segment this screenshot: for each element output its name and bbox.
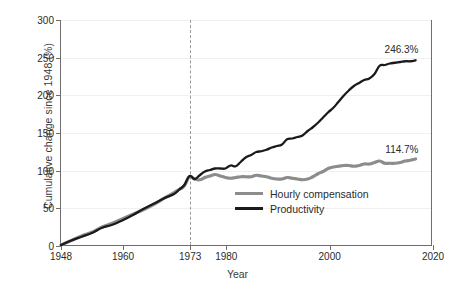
productivity-endpoint: 246.3% [385, 44, 419, 55]
y-tick-label: 50 [20, 203, 61, 214]
y-tick-label: 300 [20, 15, 61, 26]
legend-swatch [235, 207, 263, 210]
y-tick-label: 0 [20, 241, 61, 252]
x-tick-label: 1948 [50, 251, 72, 262]
x-tick-label: 1980 [215, 251, 237, 262]
x-tick-mark [433, 245, 434, 250]
x-tick-mark [226, 245, 227, 250]
y-tick-label: 100 [20, 165, 61, 176]
legend-label: Hourly compensation [270, 188, 369, 200]
x-axis-title: Year [0, 268, 457, 280]
x-tick-label: 1973 [179, 251, 201, 262]
x-tick-label: 1960 [112, 251, 134, 262]
x-tick-label: 2000 [319, 251, 341, 262]
legend-item[interactable]: Productivity [235, 201, 369, 216]
y-tick-label: 250 [20, 52, 61, 63]
x-tick-mark [123, 245, 124, 250]
series-line [61, 60, 416, 245]
legend: Hourly compensationProductivity [235, 186, 369, 216]
legend-swatch [235, 192, 263, 196]
y-tick-label: 200 [20, 90, 61, 101]
y-tick-label: 150 [20, 128, 61, 139]
legend-item[interactable]: Hourly compensation [235, 186, 369, 201]
productivity-pay-gap-chart: Cumulative change since 1948 (%) 0501001… [0, 0, 457, 288]
legend-label: Productivity [270, 203, 324, 215]
compensation-endpoint: 114.7% [385, 143, 418, 154]
x-tick-mark [190, 245, 191, 250]
x-tick-label: 2020 [422, 251, 444, 262]
x-tick-mark [330, 245, 331, 250]
